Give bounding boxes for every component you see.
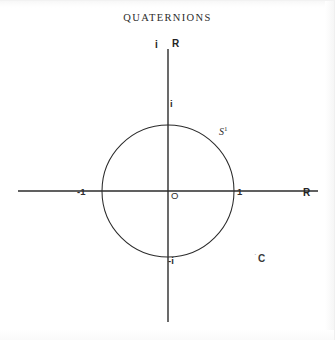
tick-label-negative-one: -1 bbox=[77, 187, 85, 197]
complex-plane-label: ·C bbox=[258, 254, 265, 264]
tick-label-one: 1 bbox=[237, 187, 242, 197]
complex-plane-diagram bbox=[0, 1, 335, 340]
tick-label-negative-i: -i bbox=[168, 256, 174, 266]
origin-label: O bbox=[171, 191, 178, 201]
real-axis-label-r: R bbox=[303, 188, 310, 198]
tick-label-i: i bbox=[170, 99, 173, 109]
vertical-axis-label-i: i bbox=[155, 40, 158, 50]
unit-circle-label-exponent: 1 bbox=[224, 125, 228, 133]
vertical-axis-label-r: R bbox=[172, 39, 179, 49]
quaternions-figure: QUATERNIONS i R i -i -1 1 O R S1 ·C bbox=[0, 0, 335, 340]
complex-plane-label-mark: · bbox=[254, 251, 257, 259]
complex-plane-label-letter: C bbox=[258, 253, 265, 264]
unit-circle-label: S1 bbox=[219, 126, 228, 137]
